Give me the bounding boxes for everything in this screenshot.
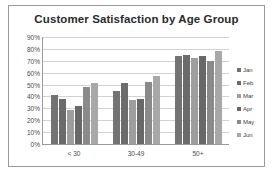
bar-group <box>167 37 229 144</box>
x-axis-category-labels: < 3030-4950+ <box>43 150 229 162</box>
chart-legend: JanFebMarAprMayJun <box>237 63 267 141</box>
bar-group <box>43 37 105 144</box>
y-axis-tick-label: 90% <box>14 34 40 41</box>
bar[interactable] <box>175 56 182 144</box>
y-axis-tick-label: 30% <box>14 105 40 112</box>
legend-label: Feb <box>243 80 253 86</box>
legend-label: May <box>243 119 254 125</box>
y-axis-tick-label: 10% <box>14 129 40 136</box>
bar[interactable] <box>91 83 98 144</box>
bar[interactable] <box>191 58 198 144</box>
x-axis-category-label: < 30 <box>68 150 81 157</box>
legend-item[interactable]: Jan <box>237 63 267 76</box>
bar[interactable] <box>75 106 82 144</box>
x-axis-category-label: 50+ <box>192 150 203 157</box>
legend-swatch-icon <box>237 133 241 137</box>
bar[interactable] <box>215 51 222 144</box>
bar[interactable] <box>207 61 214 144</box>
bar[interactable] <box>183 55 190 144</box>
x-axis-category-label: 30-49 <box>128 150 145 157</box>
legend-swatch-icon <box>237 68 241 72</box>
legend-item[interactable]: Apr <box>237 102 267 115</box>
legend-swatch-icon <box>237 94 241 98</box>
bar[interactable] <box>199 56 206 144</box>
legend-label: Jun <box>243 132 253 138</box>
bar[interactable] <box>153 76 160 144</box>
bar[interactable] <box>113 91 120 145</box>
bar[interactable] <box>83 87 90 144</box>
y-axis-tick-label: 50% <box>14 81 40 88</box>
y-axis-tick-label: 60% <box>14 69 40 76</box>
bar[interactable] <box>67 110 74 144</box>
legend-item[interactable]: May <box>237 115 267 128</box>
chart-title: Customer Satisfaction by Age Group <box>9 13 264 25</box>
legend-swatch-icon <box>237 120 241 124</box>
bar[interactable] <box>59 99 66 144</box>
legend-label: Apr <box>243 106 252 112</box>
y-axis-tick-label: 0% <box>14 141 40 148</box>
plot-area <box>43 37 229 144</box>
y-axis-tick-label: 80% <box>14 45 40 52</box>
legend-item[interactable]: Jun <box>237 128 267 141</box>
y-axis-tick-label: 20% <box>14 117 40 124</box>
bar[interactable] <box>137 99 144 144</box>
bar[interactable] <box>121 83 128 144</box>
legend-swatch-icon <box>237 107 241 111</box>
bar[interactable] <box>51 95 58 144</box>
bar-group <box>105 37 167 144</box>
chart-container: Customer Satisfaction by Age Group 90%80… <box>8 5 265 167</box>
bar[interactable] <box>129 100 136 144</box>
bar[interactable] <box>145 82 152 144</box>
y-axis-tick-labels: 90%80%70%60%50%40%30%20%10%0% <box>13 37 40 144</box>
legend-item[interactable]: Mar <box>237 89 267 102</box>
legend-label: Mar <box>243 93 253 99</box>
y-axis-tick-label: 70% <box>14 57 40 64</box>
legend-label: Jan <box>243 67 253 73</box>
y-axis-tick-label: 40% <box>14 93 40 100</box>
legend-item[interactable]: Feb <box>237 76 267 89</box>
legend-swatch-icon <box>237 81 241 85</box>
axis-baseline <box>43 144 229 145</box>
